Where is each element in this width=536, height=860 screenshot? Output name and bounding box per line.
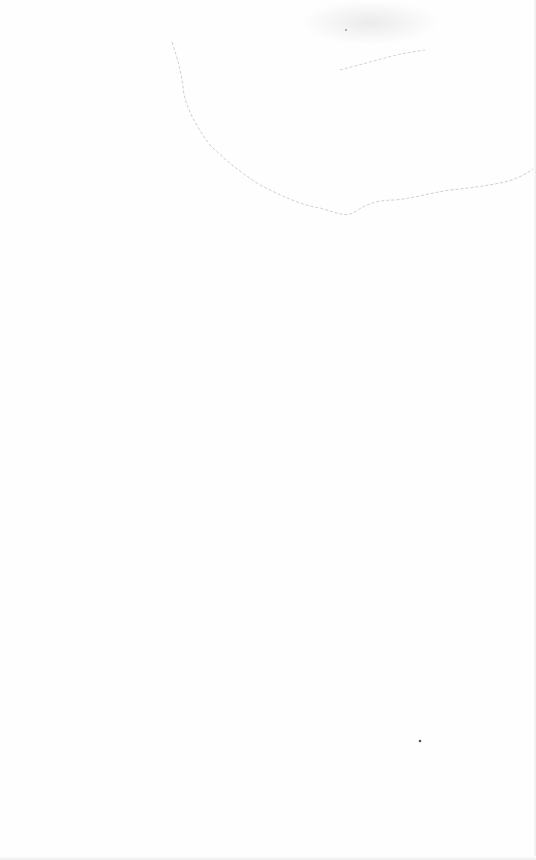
blank-page bbox=[0, 0, 536, 860]
water-stain-marks bbox=[0, 0, 536, 860]
page-edge-bottom bbox=[0, 856, 536, 860]
